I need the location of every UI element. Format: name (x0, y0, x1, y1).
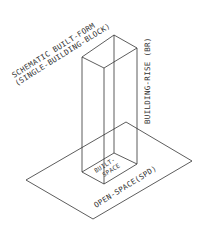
title-line-2: (SINGLE-BUILDING-BLOCK) (13, 21, 112, 87)
title-line-1: SCHEMATIC BUILT-FORM (10, 21, 97, 80)
building-rise-label: BUILDING-RISE (BR) (143, 37, 152, 124)
built-form-diagram: SCHEMATIC BUILT-FORM (SINGLE-BUILDING-BL… (0, 0, 203, 230)
